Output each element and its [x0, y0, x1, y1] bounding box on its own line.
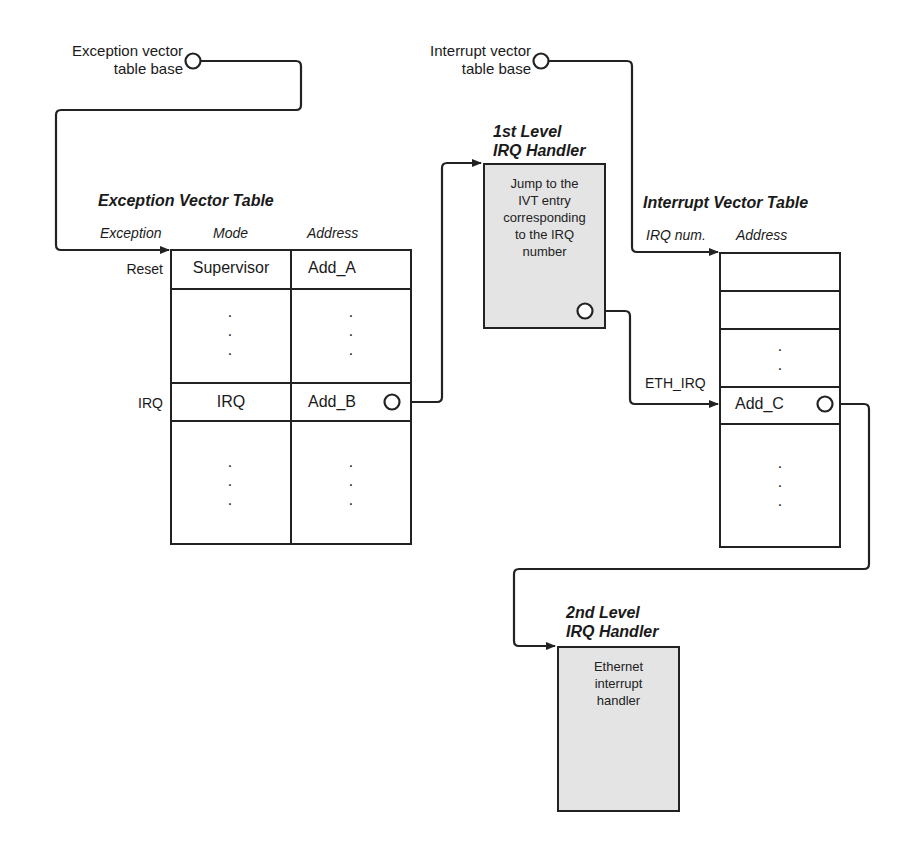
first-level-handler-title-line2: IRQ Handler	[493, 141, 585, 160]
interrupt-vector-table-title: Interrupt Vector Table	[643, 194, 808, 212]
evt-col-mode: Mode	[213, 224, 248, 242]
evt-col-address: Address	[307, 224, 358, 242]
second-level-handler-title: 2nd Level IRQ Handler	[566, 603, 658, 641]
second-level-handler-body-line: Ethernet	[559, 658, 678, 675]
ivt-col-address: Address	[736, 226, 787, 244]
ivt-row-eth-irq-address: Add_C	[735, 395, 784, 413]
first-level-output-node-icon	[576, 302, 594, 320]
exception-base-label-line2: table base	[40, 60, 183, 78]
second-level-handler-title-line1: 2nd Level	[566, 603, 658, 622]
ivt-col-irq-num: IRQ num.	[646, 226, 706, 244]
ivt-ellipsis-1: ··	[770, 340, 790, 378]
first-level-handler-body-line: IVT entry	[485, 192, 604, 209]
interrupt-base-label-line1: Interrupt vector	[390, 42, 531, 60]
ivt-row-divider	[721, 423, 839, 425]
first-level-handler-title-line1: 1st Level	[493, 122, 585, 141]
first-level-handler-body: Jump to the IVT entry corresponding to t…	[485, 165, 604, 260]
add-c-node-icon	[816, 395, 834, 413]
exception-base-connector	[56, 61, 301, 250]
exception-base-node-icon	[186, 54, 201, 69]
first-level-handler-title: 1st Level IRQ Handler	[493, 122, 585, 160]
evt-ellipsis-mode-1: ···	[220, 306, 240, 363]
ivt-row-divider	[721, 328, 839, 330]
evt-row-divider	[172, 420, 410, 422]
ivt-row-eth-irq-label: ETH_IRQ	[645, 374, 706, 392]
exception-base-label: Exception vector table base	[40, 42, 183, 78]
second-level-irq-handler-box: Ethernet interrupt handler	[557, 646, 680, 812]
evt-row-irq-mode: IRQ	[172, 393, 290, 411]
evt-row-reset-exception: Reset	[110, 260, 163, 278]
first-level-handler-body-line: to the IRQ	[485, 226, 604, 243]
evt-ellipsis-address-1: ···	[341, 306, 361, 363]
interrupt-base-label-line2: table base	[390, 60, 531, 78]
evt-row-irq-exception: IRQ	[110, 394, 163, 412]
second-level-handler-body-line: interrupt	[559, 675, 678, 692]
first-level-handler-body-line: corresponding	[485, 209, 604, 226]
evt-ellipsis-mode-2: ···	[220, 456, 240, 513]
second-level-handler-body-line: handler	[559, 692, 678, 709]
evt-row-divider	[172, 382, 410, 384]
evt-col-exception: Exception	[100, 224, 161, 242]
add-b-node-icon	[383, 393, 401, 411]
ivt-ellipsis-2: ···	[770, 457, 790, 514]
evt-row-reset-address: Add_A	[308, 259, 356, 277]
evt-row-reset-mode: Supervisor	[172, 259, 290, 277]
first-level-handler-body-line: Jump to the	[485, 175, 604, 192]
exception-vector-table-title: Exception Vector Table	[98, 192, 274, 210]
evt-row-divider	[172, 288, 410, 290]
interrupt-base-node-icon	[534, 54, 549, 69]
evt-column-divider	[290, 251, 292, 543]
interrupt-base-label: Interrupt vector table base	[390, 42, 531, 78]
second-level-handler-body: Ethernet interrupt handler	[559, 648, 678, 709]
first-level-handler-body-line: number	[485, 243, 604, 260]
second-level-handler-title-line2: IRQ Handler	[566, 622, 658, 641]
exception-base-label-line1: Exception vector	[40, 42, 183, 60]
evt-row-irq-address: Add_B	[308, 393, 356, 411]
evt-ellipsis-address-2: ···	[341, 456, 361, 513]
ivt-row-divider	[721, 386, 839, 388]
ivt-row-divider	[721, 290, 839, 292]
